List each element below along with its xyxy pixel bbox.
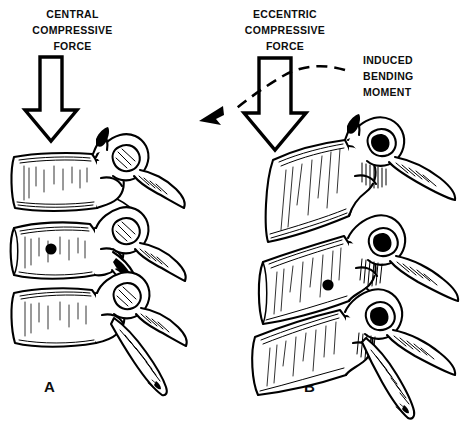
- spine-illustration: .ol{fill:#ffffff;stroke:#000000;stroke-w…: [0, 0, 469, 422]
- panel-a-lower-vertebra: [11, 272, 186, 395]
- figure-canvas: CENTRAL COMPRESSIVE FORCE ECCENTRIC COMP…: [0, 0, 469, 422]
- panel-a-upper-vertebra: [11, 127, 184, 216]
- panel-a-nutrient-foramen-dot: [45, 243, 56, 254]
- panel-a-middle-vertebra: [11, 207, 186, 286]
- panel-b-force-arrow-shape: [244, 58, 306, 150]
- panel-a-force-arrow-shape: [25, 57, 77, 141]
- panel-b-nutrient-foramen-dot: [322, 279, 333, 290]
